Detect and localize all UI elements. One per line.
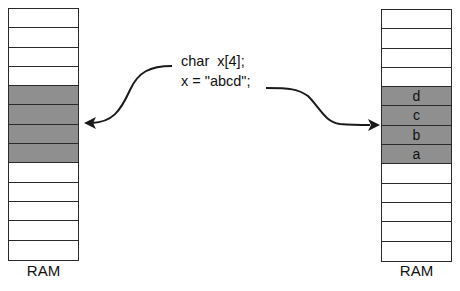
arrows: [0, 0, 460, 291]
right-arrow-curve: [266, 88, 370, 125]
left-arrow-curve: [92, 66, 172, 123]
